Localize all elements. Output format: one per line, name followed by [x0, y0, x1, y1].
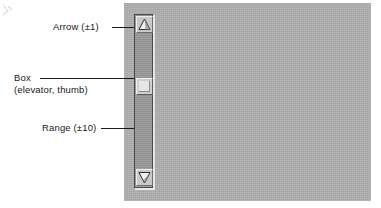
scroll-arrow-up-button[interactable] — [136, 16, 153, 33]
scroll-arrow-down-button[interactable] — [136, 169, 153, 186]
annotation-label-range-text: Range (±10) — [42, 122, 96, 133]
panel-texture — [124, 3, 371, 201]
annotation-label-box: Box (elevator, thumb) — [14, 72, 88, 95]
annotation-label-range: Range (±10) — [42, 122, 96, 134]
annotation-label-box-text: Box — [14, 72, 31, 83]
registration-mark-icon — [2, 4, 14, 16]
figure-canvas: Arrow (±1) Box (elevator, thumb) Range (… — [0, 0, 381, 208]
illustration-panel — [124, 3, 371, 201]
triangle-down-icon — [137, 170, 152, 185]
scrollbar-trough-texture — [135, 15, 152, 187]
scrollbar-thumb-face — [139, 81, 150, 92]
vertical-scrollbar[interactable] — [134, 14, 155, 190]
annotation-label-arrow: Arrow (±1) — [53, 21, 99, 33]
scrollbar-trough[interactable] — [134, 14, 153, 188]
annotation-label-arrow-text: Arrow (±1) — [53, 21, 99, 32]
triangle-up-icon — [137, 17, 152, 32]
scrollbar-thumb[interactable] — [136, 78, 153, 95]
annotation-label-box-subtext: (elevator, thumb) — [14, 84, 88, 96]
